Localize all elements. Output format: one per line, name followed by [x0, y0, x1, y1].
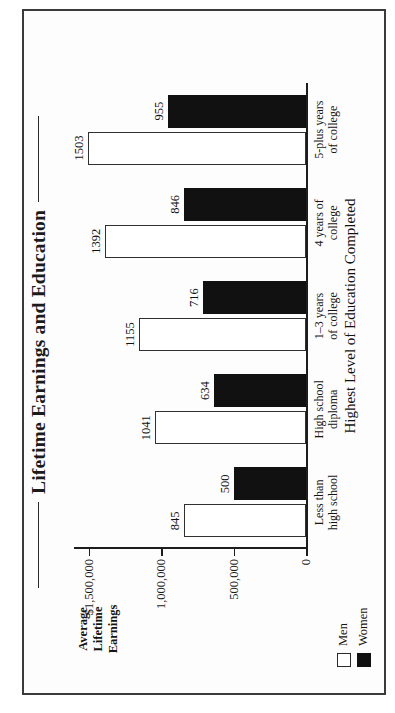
category-label-line: Less than [313, 456, 327, 549]
category-label-line: 5-plus years [313, 83, 327, 176]
bar-group: 1041634High schooldiploma [74, 363, 306, 456]
bar-value-label: 1155 [123, 322, 138, 347]
chart-title: Lifetime Earnings and Education [28, 210, 50, 494]
plot-area: 0500,0001,000,000$1,500,000 845500Less t… [74, 83, 308, 549]
legend-swatch-women-icon [357, 653, 371, 667]
category-label-line: of college [327, 269, 341, 362]
category-label: 4 years ofcollege [313, 176, 341, 269]
y-tick-label: $1,500,000 [81, 559, 96, 615]
category-label: High schooldiploma [313, 363, 341, 456]
category-label-line: 4 years of [313, 176, 327, 269]
legend-item-men: Men [336, 559, 351, 667]
bar-value-label: 845 [168, 512, 183, 531]
legend-label-men: Men [336, 623, 351, 646]
bar-value-label: 500 [218, 475, 233, 494]
category-label-line: college [327, 176, 341, 269]
bar-men: 1392 [105, 225, 307, 258]
category-label-line: of college [327, 83, 341, 176]
title-rule-right [38, 116, 39, 202]
category-label-line: high school [327, 456, 341, 549]
bar-group: 13928464 years ofcollege [74, 176, 306, 269]
category-label-line: 1–3 years [313, 269, 327, 362]
bar-value-label: 716 [187, 288, 202, 307]
category-label-line: High school [313, 363, 327, 456]
chart-title-row: Lifetime Earnings and Education [28, 9, 50, 695]
legend-swatch-men-icon [337, 653, 351, 667]
bar-women: 634 [214, 374, 306, 407]
y-axis-title-line-3: Earnings [106, 581, 121, 677]
category-label: 1–3 yearsof college [313, 269, 341, 362]
bar-group: 11557161–3 yearsof college [74, 269, 306, 362]
y-tick-label: 0 [299, 559, 314, 565]
category-label: Less thanhigh school [313, 456, 341, 549]
bar-men: 1041 [155, 411, 306, 444]
category-label: 5-plus yearsof college [313, 83, 341, 176]
bar-women: 846 [184, 188, 307, 221]
bar-value-label: 634 [198, 381, 213, 400]
scanned-page: Lifetime Earnings and Education Average … [0, 0, 395, 713]
bar-group: 15039555-plus yearsof college [74, 83, 306, 176]
bar-chart: Lifetime Earnings and Education Average … [22, 9, 386, 695]
bar-value-label: 955 [152, 102, 167, 121]
x-axis-line [306, 83, 308, 549]
bar-value-label: 846 [168, 195, 183, 214]
bar-women: 955 [168, 95, 306, 128]
y-tick-mark [306, 549, 308, 556]
bar-value-label: 1041 [139, 415, 154, 440]
y-tick-mark [89, 549, 91, 556]
title-rule-left [38, 502, 39, 588]
bar-men: 1155 [139, 318, 306, 351]
y-tick-mark [234, 549, 236, 556]
bar-women: 716 [203, 281, 307, 314]
bar-group: 845500Less thanhigh school [74, 456, 306, 549]
y-tick-mark [161, 549, 163, 556]
category-label-line: diploma [327, 363, 341, 456]
legend-item-women: Women [356, 559, 371, 667]
y-tick-label: 500,000 [226, 559, 241, 600]
legend-label-women: Women [356, 607, 371, 646]
bar-value-label: 1503 [72, 136, 87, 161]
bar-value-label: 1392 [89, 229, 104, 254]
x-axis-title: Highest Level of Education Completed [342, 83, 359, 549]
bar-women: 500 [234, 467, 307, 500]
plot-inner: 0500,0001,000,000$1,500,000 845500Less t… [74, 83, 308, 549]
bar-men: 1503 [88, 132, 306, 165]
rotated-chart-viewport: Lifetime Earnings and Education Average … [22, 9, 386, 695]
y-tick-label: 1,000,000 [154, 559, 169, 609]
bar-men: 845 [184, 504, 307, 537]
chart-legend: Men Women [336, 559, 376, 667]
